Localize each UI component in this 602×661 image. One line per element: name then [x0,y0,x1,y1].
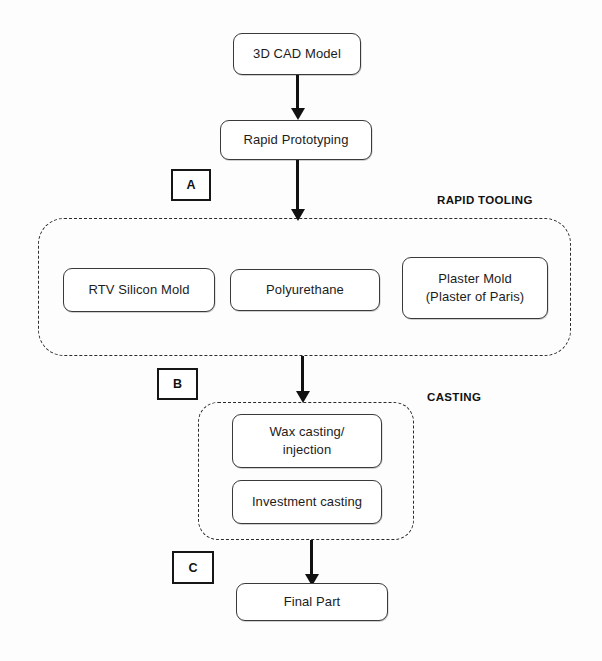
flowchart-canvas: 3D CAD Model Rapid Prototyping A RAPID T… [0,0,602,661]
node-investment-casting-label: Investment casting [252,493,362,511]
node-plaster-mold: Plaster Mold (Plaster of Paris) [402,257,548,319]
node-plaster-mold-label: Plaster Mold (Plaster of Paris) [426,270,525,305]
node-final-part-label: Final Part [284,593,341,611]
step-marker-c: C [172,551,214,584]
node-polyurethane-label: Polyurethane [266,281,344,299]
group-caption-rapid-tooling: RAPID TOOLING [437,194,533,206]
step-marker-c-label: C [188,561,197,575]
node-3d-cad-model: 3D CAD Model [233,33,361,75]
step-marker-b: B [157,368,198,400]
step-marker-b-label: B [173,377,182,391]
step-marker-a: A [171,169,211,201]
node-polyurethane: Polyurethane [230,269,380,311]
node-rtv-silicon-mold-label: RTV Silicon Mold [88,281,189,299]
arrowhead-icon [291,108,305,120]
node-investment-casting: Investment casting [232,480,382,524]
connector-shaft [301,356,304,392]
node-final-part: Final Part [236,583,388,621]
connector-shaft [310,540,313,575]
node-rapid-prototyping-label: Rapid Prototyping [243,131,348,149]
node-wax-casting-injection: Wax casting/ injection [232,414,382,468]
node-wax-casting-injection-label: Wax casting/ injection [269,423,344,458]
connector-shaft [296,75,299,109]
node-rapid-prototyping: Rapid Prototyping [220,120,372,160]
group-caption-casting: CASTING [427,391,481,403]
node-rtv-silicon-mold: RTV Silicon Mold [63,268,215,312]
connector-shaft [296,160,299,210]
step-marker-a-label: A [186,178,195,192]
node-3d-cad-model-label: 3D CAD Model [253,45,341,63]
